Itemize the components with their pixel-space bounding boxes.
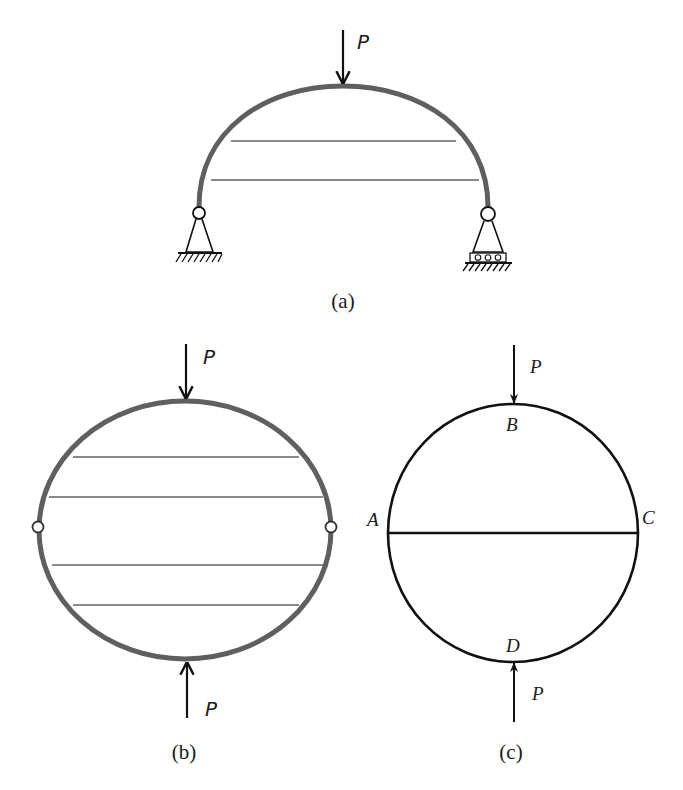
caption-c: (c) bbox=[499, 740, 522, 764]
top-load-label: P bbox=[529, 356, 542, 377]
pin-support-icon bbox=[176, 207, 222, 262]
load-label: P bbox=[357, 30, 370, 54]
figure-c: P P A B C D (c) bbox=[365, 345, 655, 764]
caption-b: (b) bbox=[172, 740, 197, 764]
point-c-label: C bbox=[642, 507, 655, 528]
hinge-left-icon bbox=[33, 522, 44, 533]
bottom-load-label: P bbox=[531, 683, 544, 704]
point-d-label: D bbox=[505, 635, 520, 656]
ring bbox=[39, 401, 331, 659]
diagram-canvas: P bbox=[0, 0, 683, 790]
top-load-label: P bbox=[203, 345, 216, 369]
roller-support-icon bbox=[463, 207, 512, 271]
arch bbox=[199, 86, 488, 207]
hinge-right-icon bbox=[326, 522, 337, 533]
point-a-label: A bbox=[365, 509, 379, 530]
caption-a: (a) bbox=[331, 289, 354, 313]
point-b-label: B bbox=[506, 414, 518, 435]
figure-a: P bbox=[176, 30, 512, 313]
bottom-load-label: P bbox=[205, 697, 218, 721]
figure-b: P P (b) bbox=[33, 344, 337, 764]
